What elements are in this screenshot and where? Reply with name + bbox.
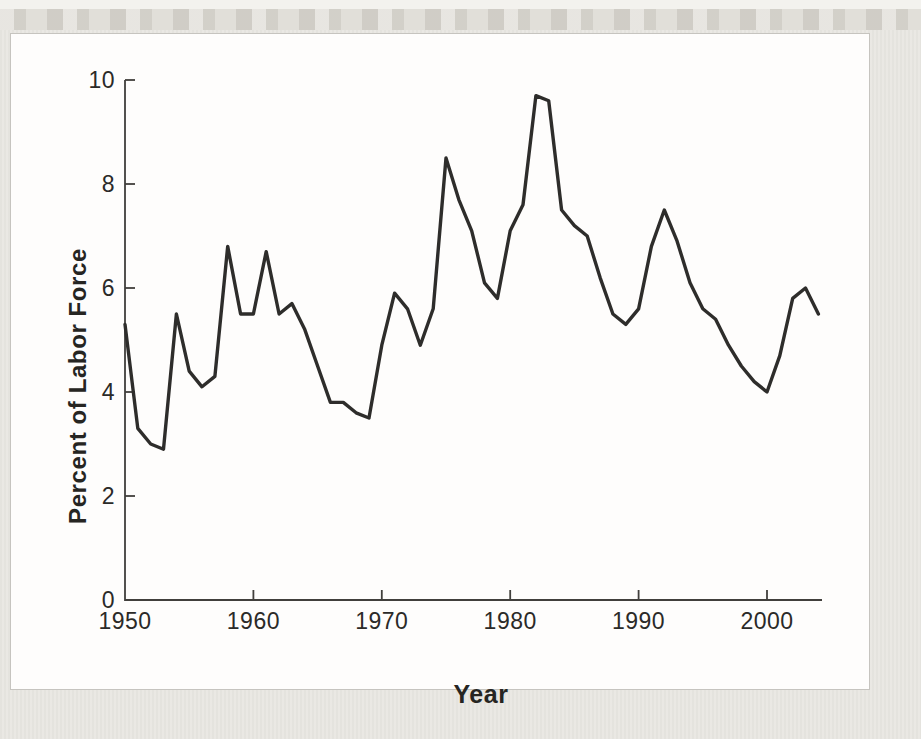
y-tick-label: 10	[88, 67, 115, 93]
scanned-book-page: { "page": { "background_color": "#eae8e3…	[0, 0, 921, 739]
y-tick-label: 6	[102, 275, 115, 301]
y-tick-label: 2	[102, 483, 115, 509]
y-tick-label: 8	[102, 171, 115, 197]
x-tick-label: 2000	[740, 608, 793, 634]
line-chart: 0246810195019601970198019902000	[0, 0, 921, 739]
axes	[125, 80, 822, 600]
x-tick-label: 1960	[227, 608, 280, 634]
x-tick-label: 1970	[355, 608, 408, 634]
x-tick-label: 1980	[484, 608, 537, 634]
y-tick-label: 4	[102, 379, 115, 405]
x-tick-label: 1950	[98, 608, 151, 634]
unemployment-rate-line	[125, 96, 818, 450]
x-tick-label: 1990	[612, 608, 665, 634]
